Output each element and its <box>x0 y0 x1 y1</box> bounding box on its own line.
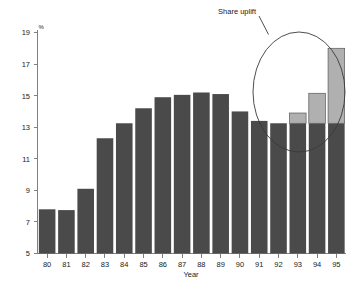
x-tick-label-80: 80 <box>43 260 51 269</box>
x-tick-label-84: 84 <box>120 260 128 269</box>
y-tick-label-17: 17 <box>22 60 30 69</box>
share-uplift-annotation-label: Share uplift <box>218 7 257 16</box>
y-tick-label-5: 5 <box>26 249 30 258</box>
y-axis-unit-label: % <box>39 24 45 30</box>
x-tick-label-89: 89 <box>216 260 224 269</box>
bar-uplift-93 <box>290 113 307 123</box>
bar-base-93 <box>290 123 307 253</box>
x-tick-label-87: 87 <box>178 260 186 269</box>
y-tick-label-15: 15 <box>22 92 30 101</box>
x-tick-label-92: 92 <box>274 260 282 269</box>
bar-base-94 <box>309 123 326 253</box>
x-tick-label-91: 91 <box>255 260 263 269</box>
chart-canvas: 19 17 15 13 11 9 7 5 % 80818283848586878… <box>0 0 359 293</box>
x-tick-label-90: 90 <box>236 260 244 269</box>
x-tick-label-86: 86 <box>159 260 167 269</box>
bar-base-87 <box>174 95 191 254</box>
bar-base-84 <box>116 123 133 253</box>
bar-base-88 <box>193 92 210 253</box>
x-tick-label-93: 93 <box>294 260 302 269</box>
bar-base-86 <box>155 97 172 253</box>
y-tick-label-11: 11 <box>22 155 30 164</box>
x-tick-label-82: 82 <box>82 260 90 269</box>
x-axis-title: Year <box>183 270 199 279</box>
y-tick-label-7: 7 <box>26 218 30 227</box>
x-tick-label-83: 83 <box>101 260 109 269</box>
bar-base-95 <box>328 123 345 253</box>
bar-base-82 <box>77 189 94 254</box>
bar-base-81 <box>58 210 75 253</box>
bar-base-85 <box>135 108 152 253</box>
bar-chart: 19 17 15 13 11 9 7 5 % 80818283848586878… <box>0 0 359 293</box>
y-tick-label-19: 19 <box>22 28 30 37</box>
bar-base-80 <box>39 209 56 253</box>
x-tick-label-95: 95 <box>332 260 340 269</box>
bar-base-90 <box>232 111 249 253</box>
x-tick-label-88: 88 <box>197 260 205 269</box>
x-tick-label-94: 94 <box>313 260 321 269</box>
bar-base-83 <box>97 138 114 253</box>
bar-base-91 <box>251 121 268 254</box>
bar-base-92 <box>270 123 287 253</box>
x-tick-label-81: 81 <box>62 260 70 269</box>
bar-uplift-94 <box>309 93 326 123</box>
y-tick-label-9: 9 <box>26 186 30 195</box>
y-tick-label-13: 13 <box>22 123 30 132</box>
x-tick-label-85: 85 <box>139 260 147 269</box>
bar-base-89 <box>212 94 229 253</box>
